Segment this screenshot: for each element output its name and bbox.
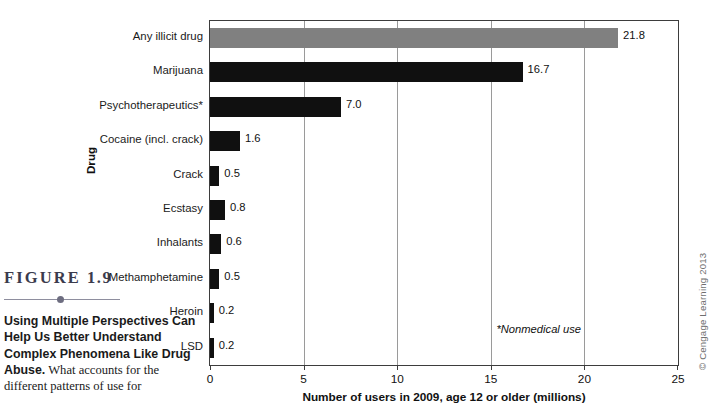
x-axis-tick-label: 0 bbox=[207, 372, 214, 386]
bar-value-label: 16.7 bbox=[528, 63, 550, 75]
bar-value-label: 1.6 bbox=[245, 132, 261, 144]
bar-row[interactable]: Psychotherapeutics*7.0 bbox=[210, 90, 678, 124]
category-label: Marijuana bbox=[153, 64, 203, 76]
bar-value-label: 0.8 bbox=[230, 201, 246, 213]
x-axis-tick-label: 10 bbox=[391, 372, 404, 386]
bar-row[interactable]: Cocaine (incl. crack)1.6 bbox=[210, 124, 678, 158]
bar-row[interactable]: Any illicit drug21.8 bbox=[210, 21, 678, 55]
bar[interactable] bbox=[210, 131, 240, 151]
x-axis-tick-label: 15 bbox=[484, 372, 497, 386]
bar[interactable] bbox=[210, 97, 341, 117]
bar[interactable] bbox=[210, 28, 618, 48]
x-axis-tick-label: 25 bbox=[671, 372, 684, 386]
x-axis-tick bbox=[397, 365, 398, 370]
divider-dot-icon bbox=[57, 296, 64, 303]
x-axis-tick bbox=[677, 365, 678, 370]
category-label: Inhalants bbox=[157, 236, 203, 248]
category-label: Cocaine (incl. crack) bbox=[100, 133, 203, 145]
x-axis-tick-label: 20 bbox=[578, 372, 591, 386]
plot-area: 0510152025Any illicit drug21.8Marijuana1… bbox=[209, 20, 679, 366]
x-axis-tick bbox=[210, 365, 211, 370]
bar-chart-figure: Drug 0510152025Any illicit drug21.8Marij… bbox=[78, 8, 728, 408]
bar[interactable] bbox=[210, 269, 219, 289]
bar-value-label: 7.0 bbox=[346, 98, 362, 110]
bar-value-label: 0.2 bbox=[219, 304, 235, 316]
category-label: Crack bbox=[173, 168, 203, 180]
figure-label-prefix: FIGURE bbox=[4, 268, 81, 287]
bar-value-label: 0.5 bbox=[224, 270, 240, 282]
bar-row[interactable]: Marijuana16.7 bbox=[210, 55, 678, 89]
bar-row[interactable]: Inhalants0.6 bbox=[210, 227, 678, 261]
bar-value-label: 21.8 bbox=[623, 29, 645, 41]
bar-row[interactable]: Ecstasy0.8 bbox=[210, 193, 678, 227]
x-axis-tick bbox=[491, 365, 492, 370]
bar-value-label: 0.2 bbox=[219, 339, 235, 351]
x-axis-tick bbox=[304, 365, 305, 370]
footnote-annotation: *Nonmedical use bbox=[496, 323, 581, 335]
bar-row[interactable]: LSD0.2 bbox=[210, 331, 678, 365]
bar[interactable] bbox=[210, 303, 214, 323]
y-axis-title: Drug bbox=[84, 147, 97, 174]
category-label: Methamphetamine bbox=[109, 271, 203, 283]
bar[interactable] bbox=[210, 200, 225, 220]
x-axis-tick-label: 5 bbox=[300, 372, 307, 386]
copyright-notice: © Cengage Learning 2013 bbox=[697, 253, 708, 370]
bar[interactable] bbox=[210, 338, 214, 358]
category-label: Psychotherapeutics* bbox=[99, 99, 203, 111]
category-label: Ecstasy bbox=[163, 202, 203, 214]
category-label: Any illicit drug bbox=[133, 30, 203, 42]
bar-value-label: 0.6 bbox=[226, 235, 242, 247]
bar[interactable] bbox=[210, 234, 221, 254]
bar-row[interactable]: Crack0.5 bbox=[210, 159, 678, 193]
bar-row[interactable]: Methamphetamine0.5 bbox=[210, 262, 678, 296]
category-label: Heroin bbox=[169, 305, 203, 317]
x-axis-tick bbox=[584, 365, 585, 370]
bar-value-label: 0.5 bbox=[224, 167, 240, 179]
category-label: LSD bbox=[181, 340, 203, 352]
x-axis-title: Number of users in 2009, age 12 or older… bbox=[209, 390, 679, 404]
bar-row[interactable]: Heroin0.2 bbox=[210, 296, 678, 330]
bar[interactable] bbox=[210, 62, 523, 82]
bar[interactable] bbox=[210, 166, 219, 186]
